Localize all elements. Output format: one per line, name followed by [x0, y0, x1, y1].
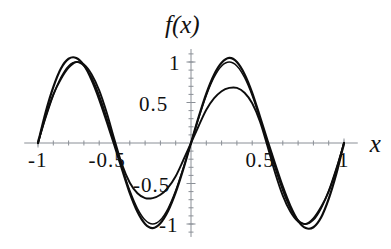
plot-canvas: -1-0.50.5110.5-0.5-1 f(x) x: [0, 0, 391, 249]
x-axis-label: x: [369, 130, 381, 157]
y-axis-label: f(x): [165, 11, 200, 39]
y-tick-label: 0.5: [139, 92, 168, 116]
y-tick-label: -1: [159, 213, 179, 237]
x-tick-label: 0.5: [246, 148, 275, 172]
x-tick-label: 1: [338, 148, 350, 172]
x-tick-label: -1: [28, 148, 48, 172]
y-tick-label: -0.5: [133, 173, 170, 197]
tick-labels-group: -1-0.50.5110.5-0.5-1: [28, 51, 350, 237]
x-tick-label: -0.5: [89, 148, 126, 172]
plot-figure: -1-0.50.5110.5-0.5-1 f(x) x: [0, 0, 391, 249]
y-tick-label: 1: [169, 51, 181, 75]
